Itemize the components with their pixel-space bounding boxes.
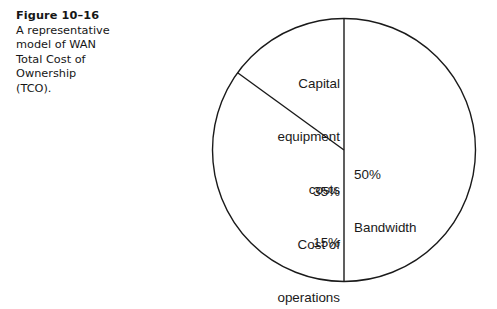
- slice-label-line: equipment: [228, 128, 340, 146]
- slice-value-bandwidth: 50%: [354, 166, 464, 184]
- slice-label-cost-of-operations: 35% Cost of operations: [228, 148, 340, 309]
- slice-label-bandwidth: 50% Bandwidth: [354, 131, 464, 272]
- slice-value-operations: 35%: [228, 183, 340, 201]
- slice-label-line: Cost of: [228, 236, 340, 254]
- slice-label-line: Capital: [228, 75, 340, 93]
- slice-label-line: Bandwidth: [354, 219, 464, 237]
- slice-label-line: operations: [228, 289, 340, 307]
